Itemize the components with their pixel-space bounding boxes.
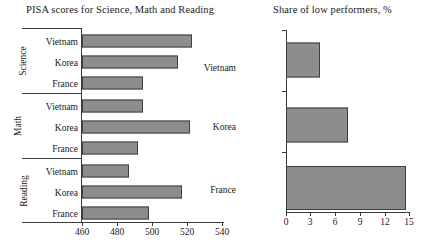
category-label-science-vietnam: Vietnam (46, 37, 78, 47)
right-chart-title: Share of low performers, % (238, 4, 427, 15)
pisa-scores-chart-panel: PISA scores for Science, Math and Readin… (0, 0, 240, 248)
bar-math-korea (82, 121, 190, 134)
left-xtick-label-520: 520 (180, 227, 194, 237)
left-xtick-label-500: 500 (145, 227, 159, 237)
right-xtick-label-9: 9 (358, 217, 363, 227)
group-label-math: Math (13, 116, 23, 136)
right-xtick-mark-9 (360, 212, 361, 216)
category-label-reading-korea: Korea (55, 188, 78, 198)
category-label-science-france: France (52, 79, 78, 89)
left-xtick-mark-500 (152, 222, 153, 226)
category-label-math-france: France (52, 144, 78, 154)
right-xtick-label-15: 15 (404, 217, 414, 227)
category-label-reading-france: France (52, 209, 78, 219)
group-box-reading: Reading Vietnam Korea France (22, 158, 82, 223)
group-label-reading: Reading (19, 175, 29, 207)
category-label-math-korea: Korea (55, 123, 78, 133)
left-xtick-label-480: 480 (110, 227, 124, 237)
left-xtick-mark-460 (82, 222, 83, 226)
bar-math-vietnam (82, 100, 143, 113)
right-xtick-label-3: 3 (308, 217, 313, 227)
bar-science-vietnam (82, 35, 192, 48)
left-xtick-label-540: 540 (215, 227, 229, 237)
group-label-science: Science (18, 46, 28, 76)
bar-reading-korea (82, 186, 182, 199)
bar-science-korea (82, 56, 178, 69)
right-xtick-label-6: 6 (333, 217, 338, 227)
left-chart-title: PISA scores for Science, Math and Readin… (6, 4, 234, 15)
right-ytick-mark-2 (282, 152, 287, 153)
right-category-label-korea: Korea (213, 122, 236, 132)
left-xtick-mark-520 (187, 222, 188, 226)
bar-lowperf-france (286, 166, 406, 210)
low-performers-chart-panel: Share of low performers, % Vietnam Korea… (240, 0, 429, 248)
bar-lowperf-korea (286, 108, 348, 143)
left-xtick-label-460: 460 (75, 227, 89, 237)
bar-lowperf-vietnam (286, 43, 320, 78)
group-box-science: Science Vietnam Korea France (22, 28, 82, 93)
bar-reading-vietnam (82, 165, 129, 178)
left-xtick-mark-540 (222, 222, 223, 226)
right-ytick-mark-top (282, 30, 287, 31)
right-chart-category-axis-line (286, 212, 410, 213)
category-label-math-vietnam: Vietnam (46, 102, 78, 112)
right-xtick-label-12: 12 (380, 217, 390, 227)
right-xtick-mark-3 (310, 212, 311, 216)
right-xtick-mark-0 (286, 212, 287, 216)
right-xtick-mark-15 (409, 212, 410, 216)
bar-reading-france (82, 207, 149, 220)
right-ytick-mark-1 (282, 91, 287, 92)
left-xtick-mark-480 (117, 222, 118, 226)
bar-science-france (82, 77, 143, 90)
right-xtick-mark-12 (385, 212, 386, 216)
right-xtick-label-0: 0 (284, 217, 289, 227)
group-box-math: Math Vietnam Korea France (22, 93, 82, 158)
bar-math-france (82, 142, 138, 155)
right-xtick-mark-6 (335, 212, 336, 216)
category-label-reading-vietnam: Vietnam (46, 167, 78, 177)
right-category-label-france: France (210, 185, 236, 195)
category-label-science-korea: Korea (55, 58, 78, 68)
right-category-label-vietnam: Vietnam (204, 63, 236, 73)
